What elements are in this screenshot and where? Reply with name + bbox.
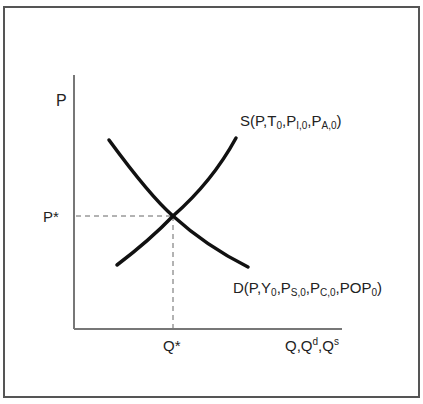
supply-demand-diagram bbox=[0, 0, 423, 404]
demand-curve-label: D(P,Y0,PS,0,PC,0,POP0) bbox=[233, 280, 382, 298]
supply-curve-label: S(P,T0,PI,0,PA,0) bbox=[240, 113, 341, 131]
demand-curve bbox=[109, 140, 248, 267]
x-axis-label: Q,Qd,Qs bbox=[285, 337, 339, 353]
equilibrium-price-label: P* bbox=[43, 209, 59, 224]
supply-curve bbox=[117, 138, 236, 265]
equilibrium-quantity-label: Q* bbox=[163, 338, 181, 353]
y-axis-label: P bbox=[56, 93, 67, 109]
